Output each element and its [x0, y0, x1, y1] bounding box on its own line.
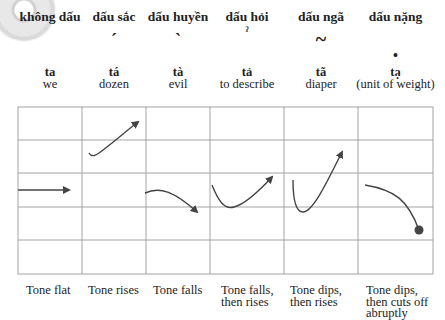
falling-rising-tone-arrow-icon — [212, 177, 272, 208]
grid-lines — [18, 107, 433, 274]
description-dips-then-cuts-off: Tone dips, then cuts off abruptly — [366, 285, 428, 320]
description-rises: Tone rises — [88, 285, 139, 297]
description-flat: Tone flat — [26, 285, 71, 297]
description-falls-then-rises: Tone falls, then rises — [221, 285, 274, 308]
abrupt-stop-dot-icon — [415, 226, 424, 235]
rising-tone-arrow-icon — [89, 122, 138, 156]
dipping-rising-tone-arrow-icon — [293, 152, 342, 212]
falling-tone-arrow-icon — [145, 190, 197, 212]
description-falls: Tone falls — [153, 285, 202, 297]
dipping-cutoff-tone-curve-icon — [365, 185, 419, 230]
description-dips-then-rises: Tone dips, then rises — [290, 285, 342, 308]
